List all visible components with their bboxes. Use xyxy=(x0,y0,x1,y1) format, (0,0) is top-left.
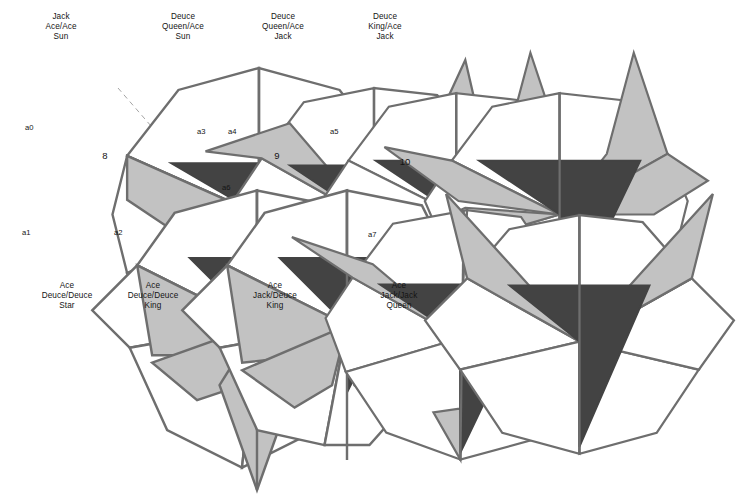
label-a6: a6 xyxy=(222,183,230,192)
group-label-10: 10 xyxy=(396,156,414,167)
label-a2: a2 xyxy=(114,228,122,237)
group-label-8: 8 xyxy=(98,150,112,161)
label-a1: a1 xyxy=(22,228,30,237)
label-a5: a5 xyxy=(330,127,338,136)
caption-a4: Deuce Queen/Ace Jack xyxy=(238,12,328,43)
label-a3: a3 xyxy=(197,127,205,136)
caption-a5: Deuce King/Ace Jack xyxy=(340,12,430,43)
group-label-9: 9 xyxy=(270,150,284,161)
caption-a0: Jack Ace/Ace Sun xyxy=(18,12,104,43)
caption-a1: Ace Deuce/Deuce Star xyxy=(20,281,114,312)
label-a4: a4 xyxy=(228,127,236,136)
caption-a7: Ace Jack/Jack Queen xyxy=(352,281,446,312)
label-a0: a0 xyxy=(25,123,33,132)
caption-a3: Deuce Queen/Ace Sun xyxy=(138,12,228,43)
caption-a6: Ace Jack/Deuce King xyxy=(228,281,322,312)
label-a7: a7 xyxy=(368,230,376,239)
caption-a2: Ace Deuce/Deuce King xyxy=(106,281,200,312)
